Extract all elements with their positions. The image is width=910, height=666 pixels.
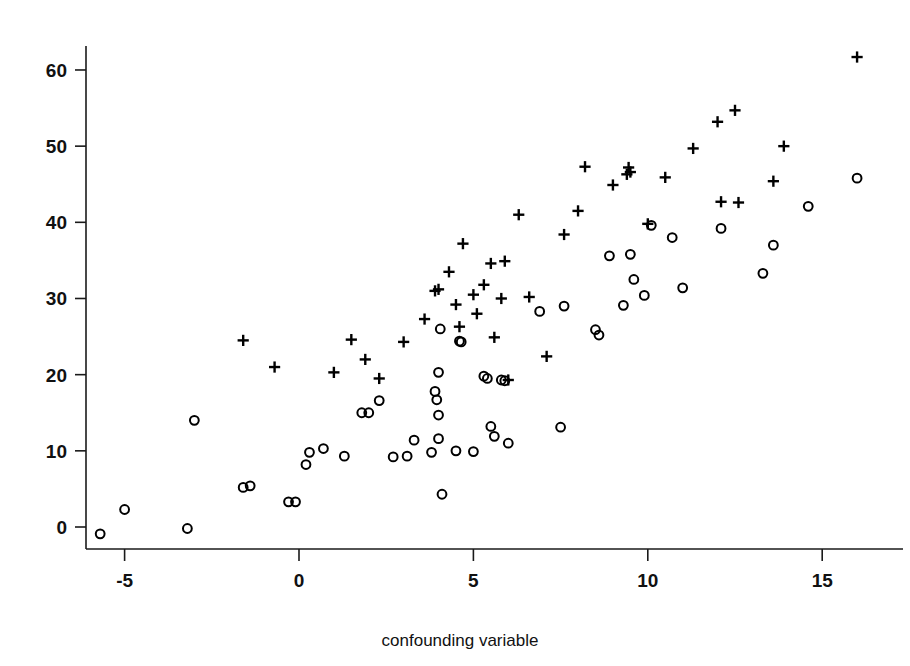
y-tick-label-20: 20 (46, 365, 67, 386)
data-point-plus (579, 161, 590, 172)
data-point-circle (668, 233, 677, 242)
data-point-plus (688, 143, 699, 154)
data-point-plus (768, 176, 779, 187)
data-point-plus (443, 266, 454, 277)
data-point-plus (485, 258, 496, 269)
plot-canvas: 0102030405060-5051015 confounding variab… (0, 0, 910, 666)
y-tick-label-30: 30 (46, 288, 67, 309)
data-point-plus (642, 218, 653, 229)
data-point-circle (640, 291, 649, 300)
y-tick-label-10: 10 (46, 441, 67, 462)
x-tick-label-15: 15 (812, 570, 834, 591)
data-point-circle (305, 448, 314, 457)
data-point-plus (269, 361, 280, 372)
data-point-circle (434, 368, 443, 377)
data-point-circle (375, 396, 384, 405)
data-point-plus (660, 172, 671, 183)
data-point-plus (360, 354, 371, 365)
x-tick-label-10: 10 (637, 570, 658, 591)
data-point-plus (572, 205, 583, 216)
axis-ticks (75, 70, 822, 561)
data-point-circle (535, 307, 544, 316)
data-point-plus (607, 179, 618, 190)
data-point-circle (804, 202, 813, 211)
data-point-circle (490, 432, 499, 441)
data-point-plus (398, 336, 409, 347)
data-point-circle (410, 436, 419, 445)
data-point-plus (712, 116, 723, 127)
data-point-circle (629, 275, 638, 284)
data-point-circle (436, 325, 445, 334)
data-point-circle (769, 241, 778, 250)
data-point-circle (431, 387, 440, 396)
data-point-plus (499, 256, 510, 267)
y-tick-label-50: 50 (46, 136, 67, 157)
data-point-circle (96, 529, 105, 538)
data-point-circle (319, 444, 328, 453)
data-point-plus (419, 313, 430, 324)
y-tick-label-60: 60 (46, 60, 67, 81)
data-point-circle (626, 250, 635, 259)
data-point-plus (513, 209, 524, 220)
axes (86, 46, 903, 549)
data-point-circle (389, 453, 398, 462)
data-point-plus (489, 332, 500, 343)
data-point-circle (120, 505, 129, 514)
x-tick-label-0: 0 (294, 570, 305, 591)
y-tick-label-0: 0 (56, 517, 67, 538)
data-point-circle (340, 452, 349, 461)
data-point-plus (471, 308, 482, 319)
data-point-circle (427, 448, 436, 457)
data-point-circle (190, 416, 199, 425)
data-point-circle (452, 446, 461, 455)
y-tick-label-40: 40 (46, 212, 67, 233)
data-point-circle (619, 301, 628, 310)
data-point-plus (478, 279, 489, 290)
data-point-circle (605, 251, 614, 260)
data-point-circle (759, 269, 768, 278)
data-point-plus (468, 289, 479, 300)
data-point-plus (450, 299, 461, 310)
data-point-plus (733, 197, 744, 208)
data-point-plus (328, 367, 339, 378)
data-point-plus (496, 293, 507, 304)
x-tick-label--5: -5 (116, 570, 133, 591)
data-point-plus (851, 51, 862, 62)
data-point-plus (374, 373, 385, 384)
data-points (96, 51, 863, 538)
data-point-plus (778, 141, 789, 152)
data-point-plus (715, 196, 726, 207)
data-point-plus (238, 335, 249, 346)
data-point-circle (556, 423, 565, 432)
data-point-circle (678, 283, 687, 292)
data-point-circle (302, 460, 311, 469)
data-point-circle (434, 411, 443, 420)
data-point-circle (403, 452, 412, 461)
data-point-plus (541, 351, 552, 362)
data-point-circle (853, 174, 862, 183)
data-point-circle (469, 447, 478, 456)
data-point-circle (438, 490, 447, 499)
scatter-plot-figure: 0102030405060-5051015 confounding variab… (0, 0, 910, 666)
data-point-circle (504, 439, 513, 448)
data-point-circle (717, 224, 726, 233)
data-point-plus (346, 334, 357, 345)
data-point-plus (558, 229, 569, 240)
data-point-circle (560, 302, 569, 311)
data-point-plus (454, 321, 465, 332)
data-point-circle (486, 422, 495, 431)
data-point-plus (524, 291, 535, 302)
data-point-circle (183, 524, 192, 533)
data-point-circle (434, 434, 443, 443)
data-point-circle (432, 395, 441, 404)
x-axis-title: confounding variable (382, 631, 539, 650)
data-point-plus (457, 238, 468, 249)
x-tick-label-5: 5 (468, 570, 479, 591)
data-point-plus (729, 105, 740, 116)
